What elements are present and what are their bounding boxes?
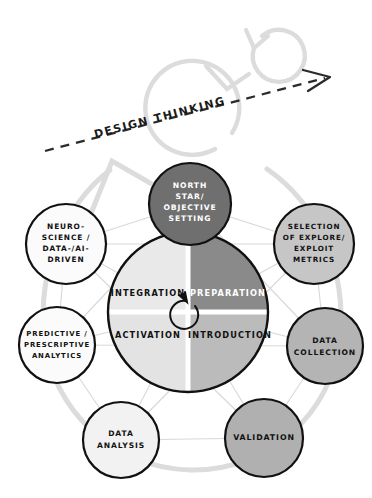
design-thinking-label: DESIGN THINKING <box>93 94 227 141</box>
diagram-canvas: INTEGRATION PREPARATION ACTIVATION INTRO… <box>0 0 372 498</box>
design-thinking-arrow: DESIGN THINKING <box>0 0 372 498</box>
